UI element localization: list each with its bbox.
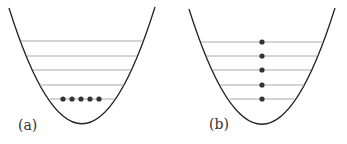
panel-label-a: (a) <box>18 117 37 133</box>
particle <box>259 67 264 72</box>
potential-well-curve-b <box>189 8 335 124</box>
panel-a <box>9 7 155 124</box>
diagram-canvas <box>0 0 347 144</box>
particle <box>259 53 264 58</box>
panel-label-b: (b) <box>209 116 229 132</box>
particle <box>259 39 264 44</box>
particle <box>60 96 65 101</box>
particle <box>96 96 101 101</box>
particle <box>259 96 264 101</box>
particles-b <box>259 39 264 101</box>
particle <box>69 96 74 101</box>
potential-well-curve-a <box>9 7 155 124</box>
particle <box>259 82 264 87</box>
particle <box>87 96 92 101</box>
particle <box>78 96 83 101</box>
panel-b <box>189 8 335 124</box>
